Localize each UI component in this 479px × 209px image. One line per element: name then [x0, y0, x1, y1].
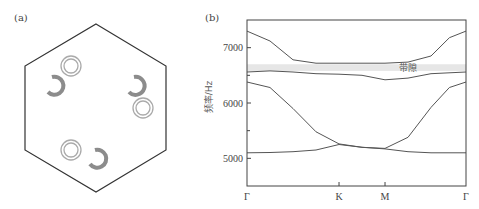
- x-tick-label: M: [381, 191, 390, 202]
- band-line-band2: [247, 82, 466, 148]
- panel-a-unit-cell: (a): [0, 0, 195, 209]
- x-tick-label: Γ: [463, 191, 469, 202]
- y-tick-label: 6000: [223, 98, 243, 109]
- band-structure-chart: 500060007000ΓKMΓ带隙频率/Hz: [195, 0, 479, 209]
- x-tick-label: K: [335, 191, 343, 202]
- band-gap-label: 带隙: [399, 62, 417, 73]
- y-axis-label: 频率/Hz: [203, 80, 214, 113]
- double-ring-icon: [133, 98, 153, 118]
- x-tick-label: Γ: [244, 191, 250, 202]
- band-line-band1: [247, 145, 466, 153]
- double-ring-icon: [61, 140, 81, 160]
- y-tick-label: 7000: [223, 42, 243, 53]
- band-line-band3: [247, 71, 466, 80]
- band-gap-region: [247, 64, 466, 71]
- hexagon-unit-cell-diagram: [0, 0, 195, 209]
- split-ring-icon: [129, 77, 145, 95]
- y-tick-label: 5000: [223, 153, 243, 164]
- double-ring-icon: [61, 56, 81, 76]
- band-line-band4: [247, 31, 466, 63]
- plot-frame: [247, 20, 466, 186]
- split-ring-icon: [48, 77, 63, 95]
- panel-b-band-structure: (b) 500060007000ΓKMΓ带隙频率/Hz: [195, 0, 479, 209]
- split-ring-icon: [90, 150, 106, 168]
